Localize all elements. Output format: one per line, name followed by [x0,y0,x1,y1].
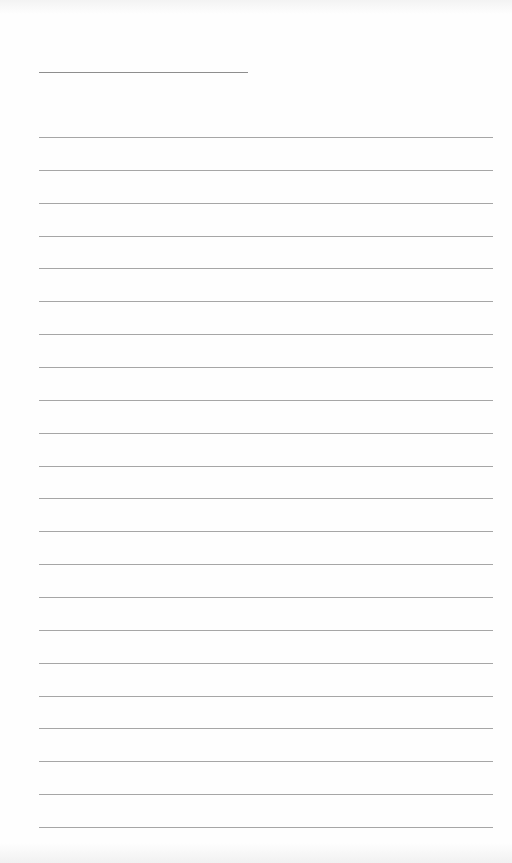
ruled-line [39,794,493,795]
ruled-line [39,696,493,697]
ruled-line [39,761,493,762]
scan-edge-bottom [0,843,512,863]
ruled-line [39,367,493,368]
ruled-line [39,827,493,828]
ruled-line [39,170,493,171]
ruled-line [39,433,493,434]
ruled-line [39,203,493,204]
ruled-line [39,498,493,499]
ruled-line [39,663,493,664]
ruled-line [39,400,493,401]
ruled-line [39,236,493,237]
ruled-line [39,301,493,302]
ruled-line [39,334,493,335]
lined-paper-page [0,0,512,863]
ruled-line [39,268,493,269]
ruled-line [39,137,493,138]
scan-edge-top [0,0,512,14]
ruled-line [39,564,493,565]
ruled-line [39,630,493,631]
title-underline [39,72,248,73]
ruled-line [39,531,493,532]
ruled-line [39,597,493,598]
ruled-line [39,728,493,729]
ruled-line [39,466,493,467]
